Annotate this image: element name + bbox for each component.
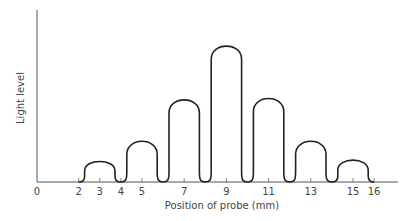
x-tick-label: 7: [181, 186, 187, 197]
light-level-curve: [79, 46, 374, 182]
x-tick-label: 9: [223, 186, 229, 197]
x-axis-label: Position of probe (mm): [165, 200, 279, 211]
axes: [37, 10, 398, 182]
chart: 023457911131516 Position of probe (mm) L…: [0, 0, 415, 221]
x-tick-label: 4: [118, 186, 124, 197]
y-axis-label: Light level: [15, 72, 26, 124]
x-tick-label: 11: [262, 186, 275, 197]
x-tick-label: 5: [139, 186, 145, 197]
x-tick-label: 16: [368, 186, 381, 197]
x-tick-label: 15: [347, 186, 360, 197]
x-tick-label: 3: [97, 186, 103, 197]
x-tick-label: 13: [304, 186, 317, 197]
x-tick-label: 0: [34, 186, 40, 197]
x-tick-label: 2: [76, 186, 82, 197]
